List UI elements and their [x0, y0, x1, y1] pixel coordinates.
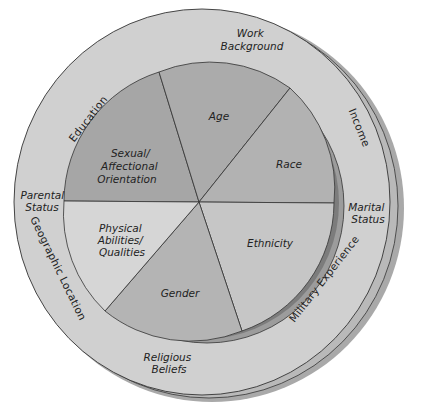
label-marital-status: Marital Status — [348, 201, 388, 225]
label-race: Race — [276, 158, 302, 170]
label-age: Age — [208, 110, 229, 122]
diversity-wheel: Age Race Ethnicity Gender Physical Abili… — [0, 0, 425, 410]
label-ethnicity: Ethnicity — [247, 237, 294, 249]
label-physical-abilities: Physical Abilities/ Qualities — [97, 222, 146, 258]
label-gender: Gender — [161, 287, 200, 299]
